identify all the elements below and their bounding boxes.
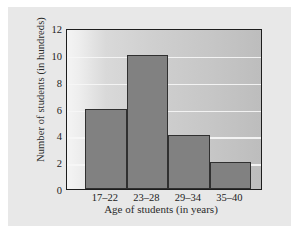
x-tick-label: 29–34: [175, 192, 201, 203]
y-tick-label: 2: [36, 158, 62, 169]
chart-panel: Number of students (in hundreds) 0246810…: [8, 7, 291, 226]
figure-root: Number of students (in hundreds) 0246810…: [0, 0, 299, 233]
bar: [85, 109, 127, 190]
y-tick-label: 4: [36, 131, 62, 142]
y-tick-label: 12: [36, 24, 62, 35]
bar: [127, 55, 169, 189]
y-axis-tick-labels: 024681012: [34, 29, 62, 190]
bar: [210, 162, 252, 189]
y-tick-label: 6: [36, 104, 62, 115]
y-tick-label: 8: [36, 77, 62, 88]
plot-area: [66, 29, 262, 190]
y-tick-label: 0: [36, 185, 62, 196]
x-axis-title: Age of students (in years): [66, 203, 256, 215]
bar: [168, 135, 210, 189]
bars-layer: [67, 30, 261, 189]
x-tick-label: 23–28: [133, 192, 159, 203]
x-tick-label: 35–40: [216, 192, 242, 203]
x-tick-label: 17–22: [92, 192, 118, 203]
y-tick-label: 10: [36, 50, 62, 61]
